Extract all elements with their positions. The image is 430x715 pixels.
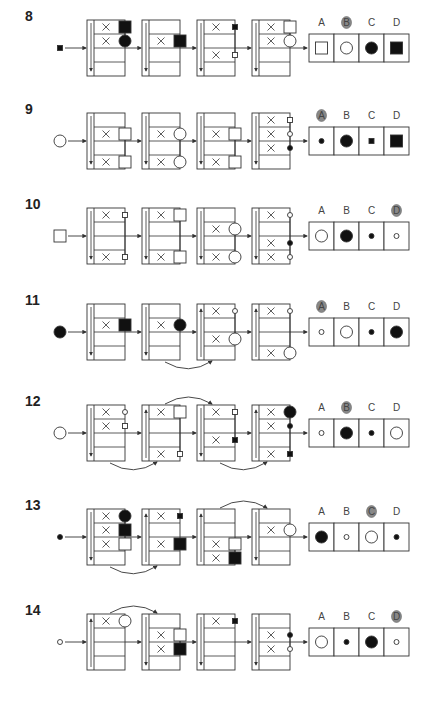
process-box-2 bbox=[142, 208, 186, 264]
white-circle-icon bbox=[284, 524, 296, 536]
puzzle-diagram: ABCD bbox=[0, 101, 430, 201]
option-b[interactable]: B bbox=[334, 110, 359, 155]
white-square-icon bbox=[119, 128, 131, 140]
option-b[interactable]: B bbox=[334, 611, 359, 656]
white-circle-icon bbox=[284, 347, 296, 359]
option-label: C bbox=[368, 110, 375, 121]
option-black-circle-icon bbox=[341, 427, 353, 439]
puzzle-11: 11ABCD bbox=[0, 292, 430, 392]
option-d[interactable]: D bbox=[384, 402, 409, 447]
option-label: C bbox=[368, 301, 375, 312]
white-circle-icon bbox=[119, 615, 131, 627]
white-square-icon bbox=[229, 538, 241, 550]
puzzle-8: 8ABCD bbox=[0, 8, 430, 108]
option-b[interactable]: B bbox=[334, 17, 359, 63]
process-box-4 bbox=[252, 113, 293, 169]
white-square-icon bbox=[174, 251, 186, 263]
option-black-circle-icon bbox=[366, 636, 378, 648]
white-square-icon bbox=[178, 452, 183, 457]
option-white-circle-icon bbox=[394, 234, 399, 239]
white-square-icon bbox=[229, 156, 241, 168]
process-box-4 bbox=[252, 509, 296, 565]
input-shape-icon bbox=[54, 427, 66, 439]
option-c[interactable]: C bbox=[359, 402, 384, 447]
black-circle-icon bbox=[119, 510, 131, 522]
option-b[interactable]: B bbox=[334, 205, 359, 250]
option-c[interactable]: C bbox=[359, 110, 384, 155]
option-b[interactable]: B bbox=[334, 506, 359, 551]
option-a[interactable]: A bbox=[309, 205, 334, 250]
white-circle-icon bbox=[229, 333, 241, 345]
option-black-circle-icon bbox=[369, 234, 374, 239]
process-box-3 bbox=[197, 113, 241, 169]
process-box-2 bbox=[142, 405, 186, 461]
option-a[interactable]: A bbox=[309, 506, 334, 551]
option-white-circle-icon bbox=[319, 330, 324, 335]
option-c[interactable]: C bbox=[359, 506, 384, 552]
white-square-icon bbox=[174, 406, 186, 418]
white-circle-icon bbox=[288, 132, 293, 137]
option-d[interactable]: D bbox=[384, 611, 409, 657]
option-b[interactable]: B bbox=[334, 301, 359, 346]
white-square-icon bbox=[123, 424, 128, 429]
option-a[interactable]: A bbox=[309, 611, 334, 656]
option-white-circle-icon bbox=[344, 535, 349, 540]
option-c[interactable]: C bbox=[359, 611, 384, 656]
white-circle-icon bbox=[233, 309, 238, 314]
puzzle-diagram: ABCD bbox=[0, 8, 430, 108]
option-label: C bbox=[368, 611, 375, 622]
option-label: C bbox=[368, 506, 375, 517]
option-black-circle-icon bbox=[341, 135, 353, 147]
option-label: A bbox=[318, 110, 325, 121]
option-d[interactable]: D bbox=[384, 301, 409, 346]
process-box-1 bbox=[87, 304, 131, 360]
process-box-3 bbox=[197, 509, 241, 565]
puzzle-diagram: ABCD bbox=[0, 196, 430, 296]
process-box-4 bbox=[252, 304, 296, 360]
white-circle-icon bbox=[123, 410, 128, 415]
option-c[interactable]: C bbox=[359, 301, 384, 346]
option-a[interactable]: A bbox=[309, 110, 334, 156]
option-label: D bbox=[393, 402, 400, 413]
black-square-icon bbox=[174, 35, 186, 47]
option-a[interactable]: A bbox=[309, 402, 334, 447]
option-black-circle-icon bbox=[369, 431, 374, 436]
puzzle-diagram: ABCD bbox=[0, 292, 430, 392]
option-label: A bbox=[318, 402, 325, 413]
option-white-circle-icon bbox=[316, 230, 328, 242]
option-white-circle-icon bbox=[316, 636, 328, 648]
option-label: D bbox=[393, 611, 400, 622]
option-white-circle-icon bbox=[366, 531, 378, 543]
black-square-icon bbox=[119, 319, 131, 331]
black-circle-icon bbox=[288, 241, 293, 246]
curved-arrow-icon bbox=[110, 606, 157, 613]
option-a[interactable]: A bbox=[309, 301, 334, 347]
option-b[interactable]: B bbox=[334, 402, 359, 448]
option-black-square-icon bbox=[369, 139, 374, 144]
process-box-4 bbox=[252, 614, 293, 670]
white-square-icon bbox=[174, 629, 186, 641]
white-circle-icon bbox=[229, 251, 241, 263]
puzzle-diagram: ABCD bbox=[0, 602, 430, 702]
process-box-1 bbox=[87, 614, 131, 670]
process-box-1 bbox=[87, 405, 128, 461]
option-d[interactable]: D bbox=[384, 205, 409, 251]
option-c[interactable]: C bbox=[359, 205, 384, 250]
black-square-icon bbox=[174, 538, 186, 550]
option-label: C bbox=[368, 17, 375, 28]
process-box-1 bbox=[87, 113, 131, 169]
option-d[interactable]: D bbox=[384, 110, 409, 155]
option-d[interactable]: D bbox=[384, 506, 409, 551]
option-black-square-icon bbox=[391, 42, 403, 54]
white-circle-icon bbox=[284, 35, 296, 47]
curved-arrow-icon bbox=[165, 361, 212, 369]
option-label: B bbox=[343, 205, 350, 216]
option-d[interactable]: D bbox=[384, 17, 409, 62]
option-a[interactable]: A bbox=[309, 17, 334, 62]
process-box-4 bbox=[252, 208, 293, 264]
puzzle-10: 10ABCD bbox=[0, 196, 430, 296]
option-label: B bbox=[343, 110, 350, 121]
option-c[interactable]: C bbox=[359, 17, 384, 62]
puzzle-diagram: ABCD bbox=[0, 497, 430, 597]
puzzle-diagram: ABCD bbox=[0, 393, 430, 493]
